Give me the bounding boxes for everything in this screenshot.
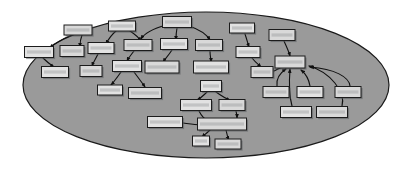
graph-node[interactable] [148,117,185,130]
node-label-band [163,42,185,45]
graph-node[interactable] [198,118,249,132]
graph-node[interactable] [181,100,214,113]
graph-node[interactable] [163,17,194,30]
node-label-band [203,84,219,87]
graph-node[interactable] [161,39,190,52]
node-label-band [183,103,209,106]
node-label-band [272,33,293,36]
graph-node[interactable] [109,21,138,33]
node-label-band [63,49,82,52]
node-label-band [165,20,189,23]
node-label-band [218,142,239,145]
graph-node[interactable] [88,43,116,56]
node-label-band [254,70,271,73]
node-label-band [131,91,159,94]
graph-node[interactable] [25,47,56,60]
graph-node[interactable] [201,81,224,94]
graph-node[interactable] [269,30,297,43]
node-label-band [300,90,321,93]
graph-node[interactable] [230,23,257,35]
node-label-band [266,90,287,93]
graph-node[interactable] [263,87,291,100]
graph-node[interactable] [193,136,212,148]
node-label-band [150,120,180,123]
graph-node[interactable] [98,85,125,97]
node-label-band [239,50,258,53]
graph-node[interactable] [113,61,144,74]
node-label-band [127,43,150,46]
graph-node[interactable] [215,139,243,151]
node-label-band [83,69,100,72]
node-label-band [200,122,244,125]
graph-node[interactable] [124,40,154,53]
graph-node[interactable] [196,40,225,53]
node-label-band [91,46,112,49]
node-label-band [222,103,243,106]
graph-node[interactable] [42,67,71,80]
graph-node[interactable] [335,87,363,100]
graph-node[interactable] [129,88,164,101]
graph-node[interactable] [281,107,314,120]
node-label-band [148,65,177,68]
graph-node[interactable] [145,61,181,75]
graph-node[interactable] [80,66,104,79]
node-label-band [232,26,252,29]
node-label-band [115,64,139,67]
node-label-band [195,139,207,142]
graph-node[interactable] [317,107,350,120]
node-label-band [27,50,51,53]
graph-node[interactable] [194,61,231,75]
diagram-canvas [0,0,412,170]
node-label-band [278,60,303,63]
node-label-band [44,70,66,73]
node-label-band [319,110,345,113]
node-label-band [338,90,359,93]
node-label-band [100,88,120,91]
graph-node[interactable] [236,47,262,60]
node-label-band [67,28,90,31]
graph-node[interactable] [64,25,94,37]
node-label-band [198,43,220,46]
graph-node[interactable] [251,67,275,80]
graph-node[interactable] [297,87,325,100]
node-label-band [283,110,309,113]
node-label-band [196,65,226,68]
graph-svg [0,0,412,170]
graph-node[interactable] [219,100,247,113]
graph-node[interactable] [275,56,307,70]
node-label-band [111,24,133,27]
graph-node[interactable] [60,46,86,59]
